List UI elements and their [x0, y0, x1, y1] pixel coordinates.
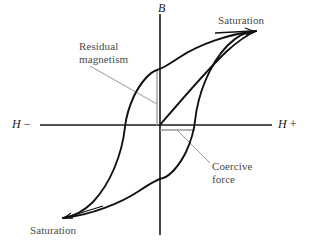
hysteresis-loop-figure: B H − H + Saturation Saturation Residual… — [0, 0, 311, 246]
h-minus-axis-label: H − — [12, 117, 30, 132]
residual-magnetism-label: Residualmagnetism — [79, 40, 128, 65]
hysteresis-plot-svg — [0, 0, 311, 246]
coercive-force-line1: Coercive — [212, 160, 253, 172]
h-plus-axis-label: H + — [278, 117, 296, 132]
coercive-force-line2: force — [212, 173, 235, 185]
saturation-bottom-label: Saturation — [30, 224, 76, 237]
saturation-top-label: Saturation — [218, 14, 264, 27]
residual-magnetism-leader-line — [90, 66, 157, 104]
residual-magnetism-line1: Residual — [79, 40, 118, 52]
h-plus-sign: + — [287, 117, 297, 131]
saturation-bottom-arrow — [64, 206, 103, 218]
initial-magnetization-curve — [160, 31, 256, 125]
h-plus-symbol: H — [278, 117, 287, 131]
residual-magnetism-line2: magnetism — [79, 53, 128, 65]
b-axis-label: B — [158, 1, 165, 16]
h-minus-symbol: H — [12, 117, 21, 131]
coercive-force-label: Coerciveforce — [212, 160, 253, 185]
h-minus-sign: − — [21, 117, 31, 131]
